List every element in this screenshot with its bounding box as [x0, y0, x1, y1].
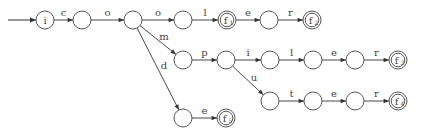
state	[304, 92, 322, 110]
final-state: f3	[389, 51, 407, 69]
edge-label: c	[61, 7, 67, 18]
state	[73, 11, 91, 29]
state-subscript: 4	[401, 100, 405, 107]
edge-e: e	[192, 105, 217, 118]
edge-label: r	[288, 7, 293, 18]
edge-label: o	[104, 7, 110, 18]
edge-label: e	[331, 88, 337, 99]
edge-e: e	[236, 7, 260, 20]
edge-label: t	[289, 88, 293, 99]
edge-l: l	[279, 47, 304, 60]
edge-label: r	[374, 47, 379, 58]
edge-l: l	[192, 7, 218, 20]
final-state: f1	[218, 11, 236, 29]
edge-r: r	[364, 47, 389, 60]
state	[174, 109, 192, 127]
edge-label: e	[245, 7, 251, 18]
state	[124, 11, 142, 29]
final-state: f4	[389, 92, 407, 110]
state	[217, 51, 235, 69]
edge-c: c	[54, 7, 73, 20]
edge-label: r	[374, 88, 379, 99]
edge-m: m	[140, 26, 176, 55]
edge-o: o	[142, 7, 174, 20]
edge-o: o	[91, 7, 124, 20]
edge-e: e	[322, 47, 346, 60]
edge-t: t	[279, 88, 304, 101]
edge-e: e	[322, 88, 346, 101]
final-state: f5	[217, 109, 235, 127]
edge-label: o	[155, 7, 161, 18]
state-subscript: 3	[401, 59, 405, 66]
edge-label: i	[246, 47, 249, 58]
edge-label: e	[202, 105, 208, 116]
edge-label: d	[161, 60, 168, 71]
final-state: f2	[303, 11, 321, 29]
state	[261, 92, 279, 110]
edge-label: l	[290, 47, 293, 58]
edge-i: i	[235, 47, 261, 60]
state: i	[36, 11, 54, 29]
edge-label: e	[331, 47, 337, 58]
edge-label: m	[159, 31, 169, 42]
state	[346, 92, 364, 110]
state-subscript: 1	[230, 19, 234, 26]
edge-u: u	[233, 66, 264, 95]
state	[174, 11, 192, 29]
state	[346, 51, 364, 69]
state-subscript: 2	[315, 19, 319, 26]
edge-label: u	[251, 72, 258, 83]
state	[174, 51, 192, 69]
edge-p: p	[192, 47, 217, 60]
edge-label: l	[203, 7, 206, 18]
edge-label: p	[201, 47, 207, 58]
state	[304, 51, 322, 69]
edge-r: r	[278, 7, 303, 20]
state-label: i	[43, 15, 46, 26]
edge-r: r	[364, 88, 389, 101]
state	[261, 51, 279, 69]
trie-diagram: coolermpileruterde if1f2f3f4f5	[0, 0, 421, 137]
state-subscript: 5	[229, 117, 233, 124]
state	[260, 11, 278, 29]
